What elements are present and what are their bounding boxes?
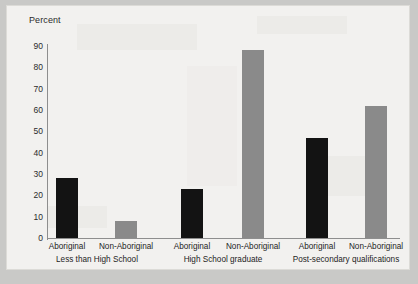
x-group-label-2: Post-secondary qualifications [293,255,400,264]
bar-non-aboriginal-high-school-graduate [242,50,264,238]
x-label-bar-1: Non-Aboriginal [99,242,153,251]
y-tick-80: 80 [27,63,43,72]
y-tick-70: 70 [27,84,43,93]
x-label-bar-3: Non-Aboriginal [226,242,280,251]
y-tick-90: 90 [27,42,43,51]
y-tick-60: 60 [27,106,43,115]
y-tick-0: 0 [27,234,43,243]
scanned-page-sheet: Percent 90 80 70 60 50 40 30 20 10 0 [6,5,410,270]
x-label-bar-0: Aboriginal [49,242,85,251]
y-tick-40: 40 [27,148,43,157]
y-tick-20: 20 [27,191,43,200]
y-axis-tick-labels: 90 80 70 60 50 40 30 20 10 0 [25,6,43,271]
plot-area [48,46,399,238]
bar-aboriginal-post-secondary-qualifications [306,138,328,238]
x-group-label-0: Less than High School [56,255,138,264]
x-axis-line [47,238,400,239]
bar-non-aboriginal-post-secondary-qualifications [365,106,387,238]
bar-aboriginal-high-school-graduate [181,189,203,238]
y-tick-50: 50 [27,127,43,136]
y-tick-10: 10 [27,212,43,221]
x-label-bar-2: Aboriginal [174,242,210,251]
y-tick-30: 30 [27,170,43,179]
screenshot-root: Percent 90 80 70 60 50 40 30 20 10 0 [0,0,418,284]
bar-aboriginal-less-than-high-school [56,178,78,238]
x-label-bar-5: Non-Aboriginal [349,242,403,251]
x-group-label-1: High School graduate [184,255,263,264]
bar-non-aboriginal-less-than-high-school [115,221,137,238]
x-label-bar-4: Aboriginal [299,242,335,251]
bar-chart: Percent 90 80 70 60 50 40 30 20 10 0 [7,6,411,271]
